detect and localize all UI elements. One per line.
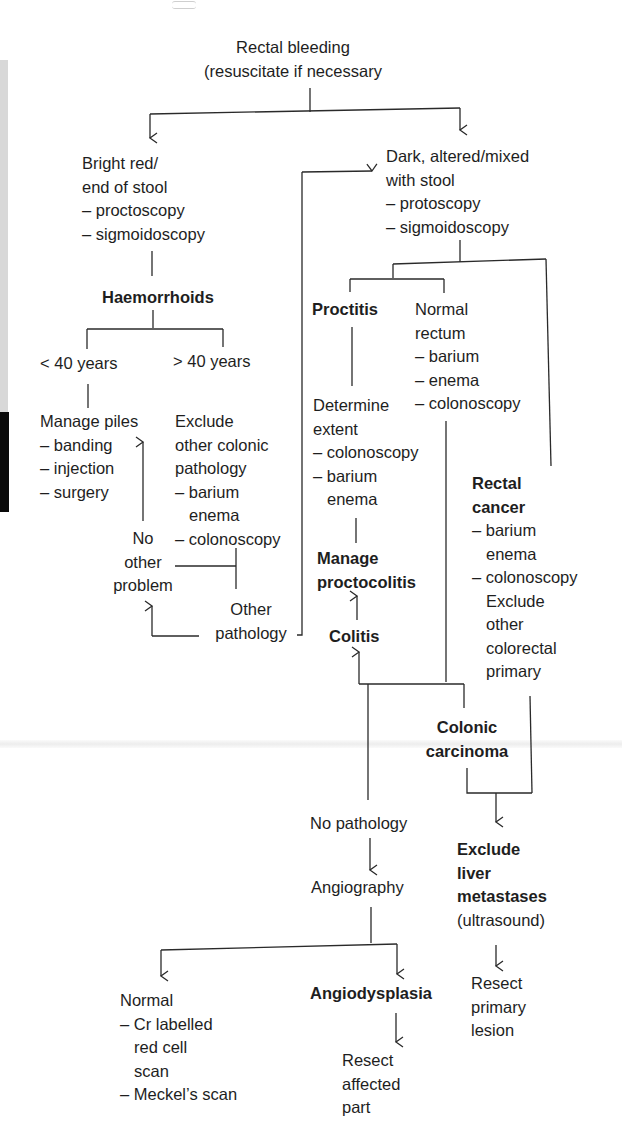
node-no-other-problem: No other problem — [108, 527, 178, 598]
node-line: Exclude — [457, 838, 547, 862]
node-line: extent — [313, 418, 419, 442]
node-line: other — [472, 613, 578, 637]
node-line: enema — [313, 488, 419, 512]
node-line: other colonic — [175, 434, 281, 458]
node-proctitis: Proctitis — [312, 298, 378, 322]
node-line: cancer — [472, 496, 578, 520]
node-line: affected — [342, 1073, 400, 1097]
node-line: Rectal — [472, 472, 578, 496]
node-line: (resuscitate if necessary — [204, 60, 382, 84]
node-line: part — [342, 1096, 400, 1120]
node-line: Dark, altered/mixed — [386, 145, 529, 169]
node-line: Angiodysplasia — [310, 982, 432, 1006]
node-line: Resect — [471, 972, 526, 996]
node-resect-primary-lesion: Resect primary lesion — [471, 972, 526, 1043]
node-line: – surgery — [40, 481, 138, 505]
node-line: Haemorrhoids — [102, 286, 214, 310]
node-line: metastases — [457, 885, 547, 909]
node-line: Manage piles — [40, 410, 138, 434]
node-line: – banding — [40, 434, 138, 458]
node-line: red cell — [120, 1036, 237, 1060]
node-line: rectum — [415, 322, 521, 346]
node-line: proctocolitis — [317, 571, 416, 595]
node-line: – barium — [472, 519, 578, 543]
node-line: Exclude — [472, 590, 578, 614]
node-line: problem — [108, 574, 178, 598]
node-line: – barium — [175, 481, 281, 505]
node-line: Rectal bleeding — [204, 36, 382, 60]
node-over-40: > 40 years — [173, 350, 251, 374]
node-line: (ultrasound) — [457, 909, 547, 933]
node-line: – sigmoidoscopy — [82, 223, 205, 247]
node-line: enema — [175, 504, 281, 528]
node-line: enema — [472, 543, 578, 567]
node-line: – Cr labelled — [120, 1013, 237, 1037]
node-line: – protoscopy — [386, 192, 529, 216]
node-line: – barium — [415, 345, 521, 369]
node-line: > 40 years — [173, 350, 251, 374]
node-line: other — [108, 551, 178, 575]
node-no-pathology: No pathology — [310, 812, 407, 836]
node-line: pathology — [175, 457, 281, 481]
node-line: No — [108, 527, 178, 551]
node-colitis: Colitis — [329, 625, 379, 649]
node-line: Bright red/ — [82, 152, 205, 176]
node-normal-rectum: Normal rectum – barium – enema – colonos… — [415, 298, 521, 416]
node-exclude-liver-metastases: Exclude liver metastases (ultrasound) — [457, 838, 547, 932]
node-line: Resect — [342, 1049, 400, 1073]
node-rectal-cancer: Rectal cancer – barium enema – colonosco… — [472, 472, 578, 684]
node-line: – colonoscopy — [415, 392, 521, 416]
node-dark-altered: Dark, altered/mixed with stool – protosc… — [386, 145, 529, 239]
node-resect-affected-part: Resect affected part — [342, 1049, 400, 1120]
node-haemorrhoids: Haemorrhoids — [102, 286, 214, 310]
node-line: Normal — [415, 298, 521, 322]
node-line: Colitis — [329, 625, 379, 649]
node-line: Proctitis — [312, 298, 378, 322]
node-line: – colonoscopy — [175, 528, 281, 552]
node-line: Other — [208, 598, 294, 622]
node-manage-proctocolitis: Manage proctocolitis — [317, 547, 416, 594]
node-bright-red: Bright red/ end of stool – proctoscopy –… — [82, 152, 205, 246]
node-line: Determine — [313, 394, 419, 418]
node-line: – proctoscopy — [82, 199, 205, 223]
node-normal-scan: Normal – Cr labelled red cell scan – Mec… — [120, 989, 237, 1107]
node-line: – Meckel’s scan — [120, 1083, 237, 1107]
node-line: Angiography — [311, 876, 404, 900]
node-line: – injection — [40, 457, 138, 481]
node-other-pathology: Other pathology — [208, 598, 294, 645]
node-line: Colonic — [417, 716, 517, 740]
node-line: Normal — [120, 989, 237, 1013]
node-line: pathology — [208, 622, 294, 646]
node-angiodysplasia: Angiodysplasia — [310, 982, 432, 1006]
node-line: Manage — [317, 547, 416, 571]
node-determine-extent: Determine extent – colonoscopy – barium … — [313, 394, 419, 512]
node-line: end of stool — [82, 176, 205, 200]
node-line: carcinoma — [417, 740, 517, 764]
node-line: – barium — [313, 465, 419, 489]
node-rectal-bleeding: Rectal bleeding (resuscitate if necessar… — [204, 36, 382, 83]
node-line: liver — [457, 862, 547, 886]
node-line: – sigmoidoscopy — [386, 216, 529, 240]
node-line: No pathology — [310, 812, 407, 836]
node-line: < 40 years — [40, 352, 118, 376]
node-line: primary — [472, 660, 578, 684]
node-line: – enema — [415, 369, 521, 393]
node-line: primary — [471, 996, 526, 1020]
node-colonic-carcinoma: Colonic carcinoma — [417, 716, 517, 763]
node-exclude-other-colonic: Exclude other colonic pathology – barium… — [175, 410, 281, 551]
node-line: colorectal — [472, 637, 578, 661]
node-manage-piles: Manage piles – banding – injection – sur… — [40, 410, 138, 504]
node-line: Exclude — [175, 410, 281, 434]
node-angiography: Angiography — [311, 876, 404, 900]
node-line: – colonoscopy — [313, 441, 419, 465]
node-line: – colonoscopy — [472, 566, 578, 590]
node-line: lesion — [471, 1019, 526, 1043]
node-line: scan — [120, 1060, 237, 1084]
node-under-40: < 40 years — [40, 352, 118, 376]
node-line: with stool — [386, 169, 529, 193]
